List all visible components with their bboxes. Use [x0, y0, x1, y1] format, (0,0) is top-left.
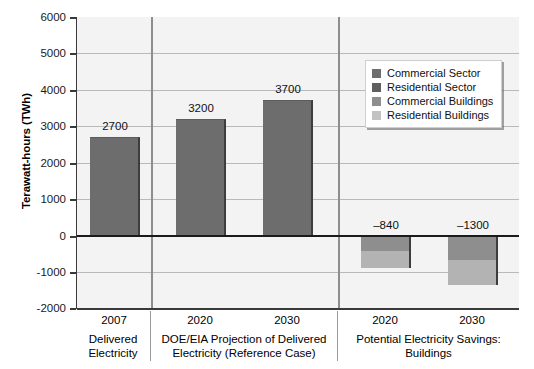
bar-2030-projected-delivered-electricity[interactable]: [263, 100, 313, 235]
bar-segment-commercial-buildings: [448, 237, 496, 260]
y-tick-label-5000: 5000: [40, 47, 66, 59]
legend-label-residential-buildings: Residential Buildings: [387, 109, 489, 121]
legend-item-commercial-buildings[interactable]: Commercial Buildings: [372, 94, 493, 108]
legend-swatch-residential-buildings: [372, 111, 381, 120]
y-tick-label-2000: 2000: [40, 157, 66, 169]
legend: Commercial Sector Residential Sector Com…: [365, 60, 502, 128]
x-tick-label-2030-savings: 2030: [442, 314, 502, 326]
gridline-5000: [77, 53, 519, 54]
x-group-label-delivered-electricity: Delivered Electricity: [76, 333, 150, 360]
group-separator-1: [151, 17, 153, 309]
group-separator-2: [338, 17, 340, 309]
x-tick-label-2007-delivered: 2007: [84, 314, 144, 326]
legend-label-commercial-buildings: Commercial Buildings: [387, 95, 493, 107]
legend-item-residential-sector[interactable]: Residential Sector: [372, 80, 493, 94]
x-tick-label-2030-projection: 2030: [257, 314, 317, 326]
x-label-separator-1: [150, 311, 151, 361]
bar-2020-potential-savings[interactable]: [361, 237, 411, 268]
y-tick-label-0: 0: [60, 230, 66, 242]
x-group-label-line-1: Potential Electricity Savings:: [339, 333, 518, 347]
bar-2030-potential-savings[interactable]: [448, 237, 498, 285]
legend-item-residential-buildings[interactable]: Residential Buildings: [372, 108, 493, 122]
legend-swatch-residential-sector: [372, 83, 381, 92]
x-group-label-potential-savings: Potential Electricity Savings: Buildings: [339, 333, 518, 360]
x-group-label-line-2: Electricity (Reference Case): [152, 347, 336, 361]
y-tick-label-n1000: -1000: [37, 266, 66, 278]
x-axis-labels: 2007 2020 2030 2020 2030 Delivered Elect…: [76, 309, 518, 369]
bar-label-2020-delivered: 3200: [171, 102, 231, 114]
x-group-label-line-2: Electricity: [76, 347, 150, 361]
bar-label-2030-delivered: 3700: [258, 83, 318, 95]
y-tick-label-1000: 1000: [40, 193, 66, 205]
x-group-label-line-1: Delivered: [76, 333, 150, 347]
bar-label-2030-savings: –1300: [439, 219, 507, 231]
bar-chart: Terawatt-hours (TWh) 6000 5000 4000 3000…: [0, 0, 534, 369]
y-axis-title: Terawatt-hours (TWh): [20, 21, 32, 281]
legend-label-residential-sector: Residential Sector: [387, 81, 476, 93]
legend-swatch-commercial-buildings: [372, 97, 381, 106]
y-tick-label-6000: 6000: [40, 11, 66, 23]
bar-label-2020-savings: –840: [354, 219, 418, 231]
x-label-separator-2: [337, 311, 338, 361]
bar-segment-commercial-buildings: [361, 237, 409, 251]
legend-label-commercial-sector: Commercial Sector: [387, 67, 481, 79]
y-tick-label-4000: 4000: [40, 84, 66, 96]
bar-2007-delivered-electricity[interactable]: [90, 137, 140, 235]
x-group-label-doe-eia-projection: DOE/EIA Projection of Delivered Electric…: [152, 333, 336, 360]
x-group-label-line-2: Buildings: [339, 347, 518, 361]
x-tick-label-2020-savings: 2020: [355, 314, 415, 326]
bar-segment-residential-buildings: [448, 260, 496, 285]
y-tick-label-3000: 3000: [40, 120, 66, 132]
legend-item-commercial-sector[interactable]: Commercial Sector: [372, 66, 493, 80]
x-group-label-line-1: DOE/EIA Projection of Delivered: [152, 333, 336, 347]
x-tick-label-2020-projection: 2020: [170, 314, 230, 326]
bar-label-2007: 2700: [85, 120, 145, 132]
bar-segment-residential-buildings: [361, 251, 409, 268]
bar-2020-projected-delivered-electricity[interactable]: [176, 119, 226, 235]
y-tick-label-n2000: -2000: [37, 302, 66, 314]
legend-swatch-commercial-sector: [372, 69, 381, 78]
